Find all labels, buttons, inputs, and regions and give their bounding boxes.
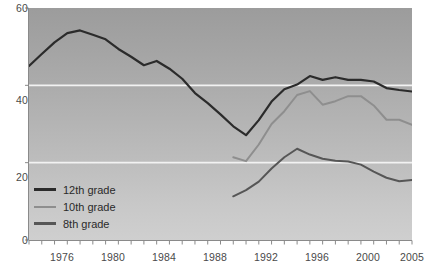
drug-use-prevalence-line-chart: 60 40 20 0 1976 1980 1984 1988 1992 1996… (0, 0, 435, 275)
y-tick-label-0: 0 (6, 235, 28, 245)
legend-swatch-8th-grade (34, 222, 56, 225)
legend-item-12th-grade: 12th grade (34, 183, 116, 196)
y-tick-label-20: 20 (6, 172, 28, 182)
x-tick-label-1980: 1980 (93, 252, 133, 262)
x-tick-label-1984: 1984 (144, 252, 184, 262)
y-tick-label-40: 40 (6, 95, 28, 105)
x-tick-label-2000: 2000 (348, 252, 388, 262)
legend-swatch-12th-grade (34, 188, 56, 191)
y-tick-label-60: 60 (6, 3, 28, 13)
x-tick-label-1992: 1992 (246, 252, 286, 262)
legend: 12th grade 10th grade 8th grade (34, 183, 116, 230)
x-tick-label-1996: 1996 (297, 252, 337, 262)
legend-item-8th-grade: 8th grade (34, 217, 116, 230)
legend-label-8th-grade: 8th grade (63, 218, 109, 230)
legend-label-10th-grade: 10th grade (63, 201, 116, 213)
axes (0, 0, 435, 275)
x-tick-label-1976: 1976 (42, 252, 82, 262)
legend-label-12th-grade: 12th grade (63, 184, 116, 196)
legend-item-10th-grade: 10th grade (34, 200, 116, 213)
legend-swatch-10th-grade (34, 206, 56, 208)
x-tick-label-2005: 2005 (392, 252, 432, 262)
x-tick-label-1988: 1988 (195, 252, 235, 262)
